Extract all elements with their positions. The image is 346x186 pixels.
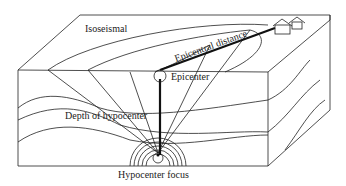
house-icon [273,19,292,34]
hypocenter-focus-label: Hypocenter focus [118,169,189,180]
depth-of-hypocenter-label: Depth of hypocenter [65,110,148,121]
side-stratum-2 [268,80,320,132]
epicentral-distance-label: Epicentral distance [173,27,249,64]
epicenter-label: Epicenter [171,71,210,82]
side-stratum-3 [285,100,325,150]
house-icons [273,17,305,34]
side-stratum-1 [268,60,310,100]
earthquake-block-diagram: Isoseismal Epicentral distance Epicenter… [0,0,346,186]
isoseismal-label: Isoseismal [85,23,127,34]
house-icon [289,17,305,29]
block-side-bottom-edge [268,110,330,166]
